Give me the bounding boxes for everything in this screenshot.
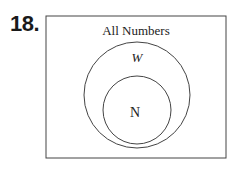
set-n-label: N: [130, 105, 140, 120]
set-w-label: W: [132, 50, 144, 65]
universe-label: All Numbers: [102, 23, 170, 38]
venn-diagram: All Numbers W N: [0, 0, 229, 176]
